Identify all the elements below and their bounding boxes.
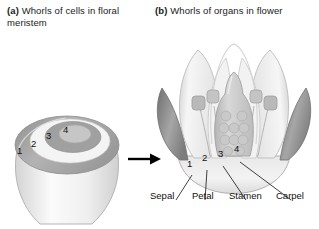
receptacle bbox=[178, 156, 290, 194]
flower-whorl-number-2: 2 bbox=[202, 152, 207, 163]
organ-label-petal: Petal bbox=[192, 190, 214, 201]
leader-line-sepal bbox=[176, 175, 192, 200]
meristem-whorl-number-4: 4 bbox=[63, 124, 68, 135]
panel-a-tag: (a) bbox=[7, 5, 19, 16]
meristem-whorl-number-3: 3 bbox=[46, 130, 51, 141]
flower-whorl-number-3: 3 bbox=[218, 148, 223, 159]
flower-whorl-number-1: 1 bbox=[187, 158, 192, 169]
panel-a-caption-text: Whorls of cells in floral meristem bbox=[7, 5, 119, 28]
organ-label-sepal: Sepal bbox=[150, 190, 174, 201]
anther-right bbox=[250, 90, 262, 103]
meristem-whorl-number-2: 2 bbox=[31, 138, 36, 149]
panel-b-caption-text: Whorls of organs in flower bbox=[170, 5, 282, 16]
flower-whorl-number-4: 4 bbox=[234, 143, 239, 154]
anther-left bbox=[207, 90, 219, 103]
figure-floral-whorls: (a) Whorls of cells in floral meristem (… bbox=[0, 0, 319, 229]
anther-far-left bbox=[192, 96, 205, 110]
panel-b-tag: (b) bbox=[155, 5, 167, 16]
meristem-svg bbox=[0, 28, 150, 229]
panel-b-caption: (b) Whorls of organs in flower bbox=[155, 5, 319, 17]
meristem-whorl-number-1: 1 bbox=[17, 145, 22, 156]
panel-a-caption: (a) Whorls of cells in floral meristem bbox=[7, 5, 147, 28]
organ-label-carpel: Carpel bbox=[276, 190, 304, 201]
anther-far-right bbox=[264, 96, 277, 110]
organ-label-stamen: Stamen bbox=[229, 190, 262, 201]
floral-meristem-diagram bbox=[0, 28, 150, 229]
